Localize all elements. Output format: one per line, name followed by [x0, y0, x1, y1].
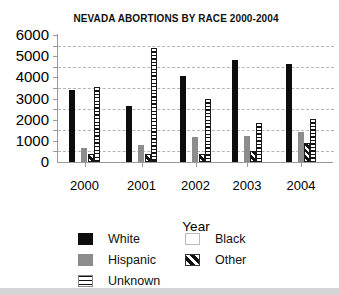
x-tick-label-2004: 2004 — [279, 179, 323, 193]
chart-image: NEVADA ABORTIONS BY RACE 2000-2004 01000… — [0, 0, 339, 295]
y-tick-label-0: 0 — [0, 154, 49, 170]
legend-label-black: Black — [215, 233, 246, 246]
x-tick-label-2000: 2000 — [63, 179, 107, 193]
x-tick-2004 — [301, 163, 302, 167]
x-tick-2003 — [247, 163, 248, 167]
x-tick-label-2001: 2001 — [120, 179, 164, 193]
x-tick-2001 — [142, 163, 143, 167]
legend: White Hispanic Unknown Black Other — [78, 233, 246, 295]
gridline-5500 — [58, 46, 334, 47]
bar-hispanic-2002 — [192, 137, 198, 162]
bar-other-2002 — [199, 154, 205, 162]
bar-unknown-2003 — [256, 123, 262, 162]
y-tick-label-1000: 1000 — [0, 133, 49, 149]
legend-item-white: White — [78, 233, 185, 254]
y-tick-label-5000: 5000 — [0, 48, 49, 64]
chart-title: NEVADA ABORTIONS BY RACE 2000-2004 — [36, 13, 316, 24]
legend-item-hispanic: Hispanic — [78, 254, 185, 275]
bar-white-2001 — [126, 106, 132, 162]
bar-unknown-2000 — [94, 87, 100, 162]
legend-label-unknown: Unknown — [108, 275, 160, 288]
bar-hispanic-2000 — [81, 148, 87, 162]
legend-item-black: Black — [185, 233, 246, 254]
bar-white-2000 — [69, 90, 75, 162]
legend-swatch-hispanic — [78, 254, 93, 266]
gridline-4500 — [58, 67, 334, 68]
legend-column-2: Black Other — [185, 233, 246, 295]
y-axis-line — [57, 34, 58, 162]
bar-unknown-2001 — [151, 48, 157, 162]
x-tick-label-2003: 2003 — [225, 179, 269, 193]
bar-other-2003 — [250, 151, 256, 162]
legend-swatch-white — [78, 233, 93, 245]
bar-other-2000 — [88, 154, 94, 162]
x-tick-2000 — [85, 163, 86, 167]
bar-other-2001 — [145, 154, 151, 162]
bar-unknown-2004 — [310, 119, 316, 162]
y-tick-label-4000: 4000 — [0, 69, 49, 85]
legend-swatch-unknown — [78, 275, 93, 287]
bar-hispanic-2003 — [244, 136, 250, 162]
legend-swatch-black — [185, 233, 200, 245]
y-tick-label-6000: 6000 — [0, 27, 49, 43]
legend-label-hispanic: Hispanic — [108, 254, 156, 267]
bar-hispanic-2004 — [298, 132, 304, 162]
legend-label-white: White — [108, 233, 140, 246]
bar-white-2002 — [180, 76, 186, 162]
bar-unknown-2002 — [205, 99, 211, 163]
bottom-gray-strip — [0, 288, 339, 295]
legend-column-1: White Hispanic Unknown — [78, 233, 185, 295]
bar-white-2004 — [286, 64, 292, 162]
y-tick-label-2000: 2000 — [0, 112, 49, 128]
legend-swatch-other — [185, 254, 200, 266]
legend-item-other: Other — [185, 254, 246, 275]
bar-other-2004 — [304, 143, 310, 162]
x-tick-2002 — [196, 163, 197, 167]
x-tick-label-2002: 2002 — [174, 179, 218, 193]
bar-white-2003 — [232, 60, 238, 162]
y-tick-label-3000: 3000 — [0, 91, 49, 107]
bar-hispanic-2001 — [138, 145, 144, 162]
legend-label-other: Other — [215, 254, 246, 267]
